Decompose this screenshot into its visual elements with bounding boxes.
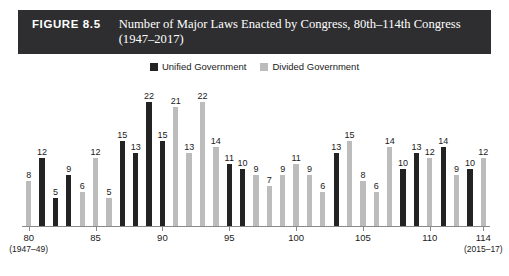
bar-group: 7 xyxy=(263,80,276,226)
bar-value-label: 15 xyxy=(116,130,129,140)
bar-group: 13 xyxy=(182,80,195,226)
bar-group: 13 xyxy=(410,80,423,226)
bar-value-label: 22 xyxy=(142,91,155,101)
legend-entry: Divided Government xyxy=(260,61,359,72)
bar-value-label: 9 xyxy=(62,164,75,174)
bar-83 xyxy=(66,175,71,226)
bar-value-label: 14 xyxy=(209,136,222,146)
x-axis-line xyxy=(22,226,490,227)
legend-swatch-icon xyxy=(150,63,158,71)
bar-group: 9 xyxy=(303,80,316,226)
legend-entry: Unified Government xyxy=(150,61,246,72)
figure-title: Number of Major Laws Enacted by Congress… xyxy=(119,17,481,47)
bar-value-label: 10 xyxy=(396,158,409,168)
legend-label: Divided Government xyxy=(272,61,359,72)
bar-group: 9 xyxy=(62,80,75,226)
bar-80 xyxy=(26,181,31,226)
bar-group: 9 xyxy=(276,80,289,226)
bar-group: 12 xyxy=(477,80,490,226)
bar-102 xyxy=(320,192,325,226)
bar-value-label: 5 xyxy=(102,187,115,197)
bar-110 xyxy=(427,158,432,226)
bar-group: 9 xyxy=(450,80,463,226)
bar-group: 14 xyxy=(383,80,396,226)
bar-91 xyxy=(173,107,178,226)
bar-value-label: 13 xyxy=(182,142,195,152)
bar-group: 11 xyxy=(223,80,236,226)
bar-107 xyxy=(387,147,392,226)
bar-value-label: 13 xyxy=(129,142,142,152)
x-axis-tick xyxy=(430,226,431,231)
figure-title-bar: FIGURE 8.5 Number of Major Laws Enacted … xyxy=(18,10,491,54)
bar-value-label: 5 xyxy=(49,187,62,197)
bar-group: 10 xyxy=(463,80,476,226)
bar-106 xyxy=(374,192,379,226)
legend-label: Unified Government xyxy=(162,61,246,72)
x-axis-tick-label: 105 xyxy=(343,232,383,243)
bar-87 xyxy=(120,141,125,226)
bar-85 xyxy=(93,158,98,226)
bar-group: 12 xyxy=(423,80,436,226)
x-axis-tick-label: 110 xyxy=(410,232,450,243)
bar-group: 12 xyxy=(35,80,48,226)
bar-value-label: 12 xyxy=(89,147,102,157)
bar-104 xyxy=(347,141,352,226)
bar-value-label: 10 xyxy=(463,158,476,168)
bar-value-label: 15 xyxy=(156,130,169,140)
bar-value-label: 15 xyxy=(343,130,356,140)
x-axis-tick xyxy=(29,226,30,231)
bar-108 xyxy=(400,169,405,226)
bar-value-label: 13 xyxy=(330,142,343,152)
x-axis-tick-sublabel: (1947–49) xyxy=(0,244,59,254)
bar-value-label: 6 xyxy=(370,181,383,191)
bar-94 xyxy=(213,147,218,226)
bar-101 xyxy=(307,175,312,226)
bar-value-label: 8 xyxy=(356,170,369,180)
bar-95 xyxy=(227,164,232,226)
bar-group: 6 xyxy=(370,80,383,226)
chart-plot-area: 8125961251513221521132214111097911961315… xyxy=(22,80,490,226)
bar-100 xyxy=(293,164,298,226)
bar-value-label: 21 xyxy=(169,96,182,106)
x-axis-tick xyxy=(296,226,297,231)
bar-group: 12 xyxy=(89,80,102,226)
bar-90 xyxy=(160,141,165,226)
x-axis-tick-label: 114 xyxy=(463,232,503,243)
bar-86 xyxy=(106,198,111,226)
bar-value-label: 12 xyxy=(35,147,48,157)
bar-111 xyxy=(441,147,446,226)
bar-value-label: 22 xyxy=(196,91,209,101)
bar-97 xyxy=(253,175,258,226)
bar-group: 15 xyxy=(156,80,169,226)
bar-group: 11 xyxy=(289,80,302,226)
bar-group: 6 xyxy=(316,80,329,226)
x-axis-tick xyxy=(162,226,163,231)
bar-value-label: 8 xyxy=(22,170,35,180)
legend-swatch-icon xyxy=(260,63,268,71)
bar-group: 5 xyxy=(102,80,115,226)
bar-group: 5 xyxy=(49,80,62,226)
bar-103 xyxy=(334,153,339,226)
bar-92 xyxy=(186,153,191,226)
x-axis-tick-label: 80 xyxy=(9,232,49,243)
bar-group: 6 xyxy=(75,80,88,226)
bar-value-label: 12 xyxy=(423,147,436,157)
x-axis-tick xyxy=(229,226,230,231)
bar-84 xyxy=(80,192,85,226)
bar-group: 22 xyxy=(196,80,209,226)
bar-value-label: 10 xyxy=(236,158,249,168)
bar-81 xyxy=(39,158,44,226)
bar-value-label: 6 xyxy=(316,181,329,191)
bar-112 xyxy=(454,175,459,226)
bar-value-label: 11 xyxy=(223,153,236,163)
bar-value-label: 14 xyxy=(437,136,450,146)
bar-group: 10 xyxy=(236,80,249,226)
bar-113 xyxy=(467,169,472,226)
bar-value-label: 11 xyxy=(289,153,302,163)
bar-group: 15 xyxy=(343,80,356,226)
bar-89 xyxy=(146,102,151,226)
bar-group: 13 xyxy=(129,80,142,226)
bar-105 xyxy=(360,181,365,226)
bar-group: 15 xyxy=(116,80,129,226)
bar-value-label: 9 xyxy=(450,164,463,174)
